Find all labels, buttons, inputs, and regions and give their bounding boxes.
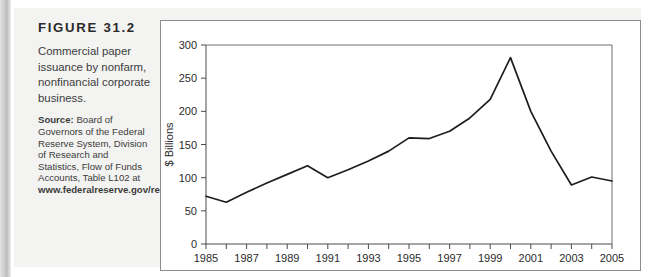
figure-source-note: Source: Board of Governors of the Federa…: [38, 114, 151, 195]
x-tick-label: 1999: [478, 252, 502, 264]
figure-caption-column: FIGURE 31.2 Commercial paper issuance by…: [38, 18, 151, 263]
x-tick-label: 1989: [275, 252, 299, 264]
data-series-line: [206, 58, 612, 203]
y-tick-label: 100: [179, 172, 197, 184]
x-tick-label: 1995: [397, 252, 421, 264]
y-tick-label: 150: [179, 139, 197, 151]
chart-frame: 050100150200250300 198519871989199119931…: [160, 20, 641, 271]
y-axis-title: $ Billions: [163, 122, 175, 167]
figure-title: FIGURE 31.2: [38, 20, 151, 35]
plot-area-border: [206, 45, 612, 244]
x-tick-label: 1987: [234, 252, 258, 264]
y-tick-label: 300: [179, 39, 197, 51]
x-tick-label: 1985: [194, 252, 218, 264]
x-tick-label: 2005: [600, 252, 624, 264]
y-tick-label: 0: [191, 238, 197, 250]
y-axis: 050100150200250300: [179, 39, 206, 250]
y-tick-label: 250: [179, 72, 197, 84]
source-label: Source:: [38, 114, 74, 125]
x-axis: 1985198719891991199319951997199920012003…: [194, 244, 624, 264]
figure-panel: FIGURE 31.2 Commercial paper issuance by…: [14, 8, 641, 267]
figure-description: Commercial paper issuance by nonfarm, no…: [38, 44, 151, 106]
y-tick-label: 200: [179, 105, 197, 117]
x-tick-label: 2003: [559, 252, 583, 264]
x-tick-label: 2001: [519, 252, 543, 264]
x-tick-label: 1991: [316, 252, 340, 264]
x-tick-label: 1993: [356, 252, 380, 264]
x-tick-label: 1997: [437, 252, 461, 264]
page-gutter-strip: [0, 0, 11, 277]
line-chart: 050100150200250300 198519871989199119931…: [161, 21, 640, 270]
y-tick-label: 50: [185, 205, 197, 217]
